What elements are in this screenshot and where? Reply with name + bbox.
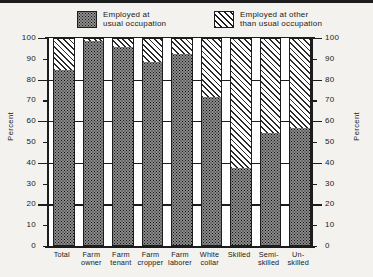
y-axis-label-right-40: 40 — [325, 158, 351, 167]
legend-item-other-occupation: Employed at other than usual occupation — [214, 10, 322, 29]
bar-segment-usual-occupation — [84, 41, 104, 245]
y-axis-label-right-0: 0 — [325, 241, 351, 250]
bar-segment-usual-occupation — [54, 70, 74, 245]
bar-un--skilled — [289, 38, 311, 246]
y-axis-label-right-50: 50 — [325, 137, 351, 146]
y-axis-label-left-20: 20 — [12, 199, 36, 208]
bar-segment-other-occupation — [290, 39, 310, 128]
y-tick-right-70 — [313, 100, 317, 101]
plot-bottom-border — [45, 246, 315, 248]
y-tick-right-100 — [313, 38, 322, 39]
y-axis-label-left-100: 100 — [12, 33, 36, 42]
bar-skilled — [230, 38, 252, 246]
y-axis-label-left-90: 90 — [12, 54, 36, 63]
bar-farm-cropper — [142, 38, 164, 246]
bar-segment-usual-occupation — [261, 133, 281, 245]
bar-segment-usual-occupation — [143, 62, 163, 245]
y-tick-right-0 — [313, 246, 317, 247]
y-axis-label-left-70: 70 — [12, 95, 36, 104]
y-axis-label-left-0: 0 — [12, 241, 36, 250]
y-axis-label-right-30: 30 — [325, 179, 351, 188]
y-axis-label-right-20: 20 — [325, 199, 351, 208]
bar-farm-tenant — [112, 38, 134, 246]
y-axis-label-right-60: 60 — [325, 116, 351, 125]
y-tick-right-40 — [313, 163, 322, 164]
legend-item-usual-occupation: Employed at usual occupation — [77, 10, 166, 29]
y-tick-left-0 — [43, 246, 47, 247]
bar-segment-other-occupation — [261, 39, 281, 133]
y-tick-left-20 — [38, 204, 47, 205]
bar-total — [53, 38, 75, 246]
y-tick-right-50 — [313, 142, 317, 143]
y-axis-label-right-90: 90 — [325, 54, 351, 63]
y-tick-right-10 — [313, 225, 317, 226]
bar-segment-usual-occupation — [113, 47, 133, 245]
y-tick-left-80 — [38, 80, 47, 81]
y-tick-left-60 — [38, 121, 47, 122]
y-tick-right-90 — [313, 59, 317, 60]
bar-segment-other-occupation — [54, 39, 74, 70]
y-tick-right-60 — [313, 121, 322, 122]
y-tick-left-30 — [43, 184, 47, 185]
bar-segment-usual-occupation — [231, 168, 251, 245]
y-tick-left-70 — [43, 100, 47, 101]
y-tick-left-10 — [43, 225, 47, 226]
bar-segment-usual-occupation — [202, 97, 222, 245]
y-axis-label-right-80: 80 — [325, 75, 351, 84]
y-axis-label-right-10: 10 — [325, 220, 351, 229]
y-axis-label-right-100: 100 — [325, 33, 351, 42]
y-axis-title-right: Percent — [352, 112, 361, 141]
bar-segment-other-occupation — [143, 39, 163, 62]
bar-segment-other-occupation — [172, 39, 192, 54]
legend-swatch-hatch-icon — [214, 11, 234, 28]
bar-segment-other-occupation — [231, 39, 251, 168]
y-axis-label-left-30: 30 — [12, 179, 36, 188]
bar-segment-usual-occupation — [290, 128, 310, 245]
x-axis-label-un--skilled: Un- skilled — [276, 251, 320, 268]
y-tick-left-40 — [38, 163, 47, 164]
bar-farm-laborer — [171, 38, 193, 246]
y-axis-title-left: Percent — [6, 112, 15, 141]
y-axis-label-left-40: 40 — [12, 158, 36, 167]
chart-page: Employed at usual occupation Employed at… — [0, 0, 373, 277]
y-axis-label-left-80: 80 — [12, 75, 36, 84]
legend-label-other-occupation: Employed at other than usual occupation — [240, 10, 322, 29]
legend-label-usual-occupation: Employed at usual occupation — [103, 10, 166, 29]
chart-legend: Employed at usual occupation Employed at… — [0, 10, 373, 36]
y-axis-label-left-60: 60 — [12, 116, 36, 125]
bar-segment-usual-occupation — [172, 54, 192, 245]
legend-swatch-dots-icon — [77, 11, 97, 28]
bar-segment-other-occupation — [113, 39, 133, 47]
bar-segment-other-occupation — [202, 39, 222, 97]
y-tick-right-30 — [313, 184, 317, 185]
bar-farm-owner — [83, 38, 105, 246]
y-tick-left-100 — [38, 38, 47, 39]
y-axis-label-right-70: 70 — [325, 95, 351, 104]
y-tick-right-20 — [313, 204, 322, 205]
plot-area — [47, 38, 313, 246]
y-tick-right-80 — [313, 80, 322, 81]
top-border-rule — [0, 0, 373, 3]
bar-semi--skilled — [260, 38, 282, 246]
y-axis-label-left-50: 50 — [12, 137, 36, 146]
bar-white-collar — [201, 38, 223, 246]
y-tick-left-90 — [43, 59, 47, 60]
y-axis-label-left-10: 10 — [12, 220, 36, 229]
y-tick-left-50 — [43, 142, 47, 143]
